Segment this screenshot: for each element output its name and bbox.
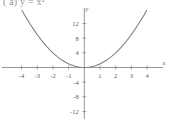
x-tick-label: 2 <box>114 72 117 79</box>
graph-figure: ( a) y = x² -4 - <box>0 0 169 123</box>
y-tick-label: -4 <box>73 79 79 86</box>
y-tick-label: 4 <box>76 49 80 56</box>
x-axis-label: x <box>162 59 166 66</box>
x-tick-label: 4 <box>145 72 149 79</box>
x-tick-label: 3 <box>130 72 134 79</box>
x-tick-label: -1 <box>66 72 72 79</box>
x-tick-label: -4 <box>19 72 25 79</box>
figure-caption-strip: ( a) y = x² <box>0 0 169 7</box>
y-tick-label: 8 <box>76 35 80 42</box>
parabola-plot: -4 -3 -2 -1 1 2 3 4 12 8 4 -4 -8 -12 x y <box>0 0 169 123</box>
y-tick-label: 12 <box>72 20 79 27</box>
y-tick-label: -8 <box>73 93 79 100</box>
x-tick-label: -3 <box>35 72 41 79</box>
x-tick-label: -2 <box>50 72 56 79</box>
figure-caption: ( a) y = x² <box>3 0 45 7</box>
y-tick-label: -12 <box>70 108 79 115</box>
x-tick-label: 1 <box>98 72 101 79</box>
